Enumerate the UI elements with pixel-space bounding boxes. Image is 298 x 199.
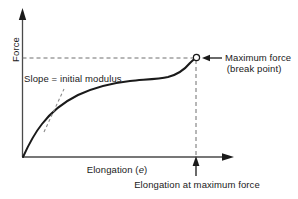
initial-modulus-tangent-dashed [44,89,64,132]
x-axis-label-close: ) [144,164,147,175]
max-force-annotation: Maximum force(break point) [225,52,291,74]
initial-modulus-annotation: Slope = initial modulus [24,73,122,84]
break-point-marker [193,54,199,60]
max-force-annotation-line1: Maximum force [225,52,291,63]
max-force-leader-arrowhead [202,55,210,61]
x-axis-arrowhead [222,153,234,160]
force-elongation-chart: Force Elongation (e) Slope = initial mod… [0,0,298,199]
elongation-at-max-force-annotation: Elongation at maximum force [124,179,270,190]
y-axis-label: Force [10,22,21,78]
y-axis-arrowhead [19,8,26,20]
x-axis-label-text: Elongation ( [87,164,139,175]
max-force-annotation-line2: (break point) [225,63,291,74]
x-axis-label: Elongation (e) [62,164,172,175]
